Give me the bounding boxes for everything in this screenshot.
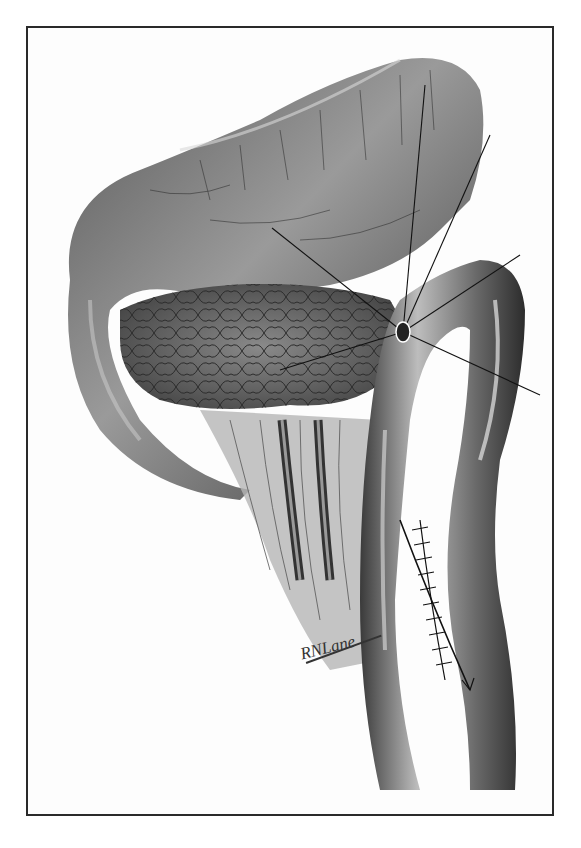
mesentery: [200, 410, 380, 670]
intestinal-loop: [360, 260, 525, 790]
anastomosis-opening: [396, 322, 410, 342]
anatomical-illustration: [0, 0, 581, 848]
pancreas: [120, 284, 401, 409]
